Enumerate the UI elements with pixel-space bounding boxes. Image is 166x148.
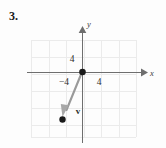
vector-name-label: v [76, 106, 81, 116]
coordinate-plot: 4 −4 4 x y v [0, 0, 166, 148]
y-axis-arrowhead [79, 26, 87, 33]
y-tick-label-4: 4 [70, 54, 75, 64]
terminal-point-dot [59, 116, 65, 122]
vector-arrowhead [61, 104, 69, 117]
x-tick-label-negative-4: −4 [59, 77, 69, 87]
x-axis-name-label: x [149, 68, 154, 78]
figure-container: 3. [0, 0, 166, 148]
x-axis [27, 69, 148, 77]
y-axis-name-label: y [86, 19, 91, 29]
grid-lines [31, 40, 137, 138]
origin-point-dot [79, 69, 86, 76]
x-axis-arrowhead [141, 69, 148, 77]
x-tick-label-4: 4 [97, 77, 102, 87]
